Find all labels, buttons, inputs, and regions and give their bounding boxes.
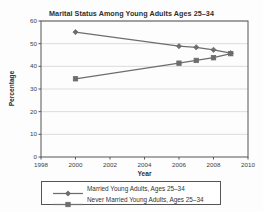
x-tick-label: 2008: [201, 161, 227, 168]
y-tick-label: 10: [15, 130, 37, 137]
marker-diamond: [211, 47, 216, 52]
legend-item-married: Married Young Adults, Ages 25–34: [42, 183, 220, 194]
x-axis-label: Year: [115, 170, 175, 177]
legend-marker-diamond-icon: [53, 184, 83, 193]
marker-square: [73, 77, 77, 81]
series-line-0: [76, 32, 231, 53]
marker-diamond: [194, 45, 199, 50]
x-tick-label: 2006: [166, 161, 192, 168]
y-tick-label: 0: [15, 153, 37, 160]
legend-label-never-married: Never Married Young Adults, Ages 25–34: [83, 195, 204, 204]
data-series-layer: [73, 30, 233, 81]
gridlines: [41, 21, 248, 134]
marker-square: [229, 51, 233, 55]
y-axis-label: Percentage: [8, 59, 15, 119]
marker-diamond: [73, 30, 78, 35]
chart-figure: Marital Status Among Young Adults Ages 2…: [0, 0, 263, 212]
marker-square: [211, 56, 215, 60]
y-tick-label: 60: [15, 17, 37, 24]
marker-square: [194, 58, 198, 62]
y-tick-label: 40: [15, 62, 37, 69]
x-tick-label: 2004: [132, 161, 158, 168]
x-tick-label: 2000: [63, 161, 89, 168]
y-tick-label: 50: [15, 40, 37, 47]
legend-marker-square-icon: [53, 195, 83, 204]
legend-item-never-married: Never Married Young Adults, Ages 25–34: [42, 194, 220, 205]
legend-label-married: Married Young Adults, Ages 25–34: [83, 184, 185, 193]
chart-legend: Married Young Adults, Ages 25–34 Never M…: [41, 181, 221, 205]
y-tick-label: 30: [15, 85, 37, 92]
marker-square: [177, 61, 181, 65]
x-tick-label: 1998: [28, 161, 54, 168]
x-tick-label: 2002: [97, 161, 123, 168]
y-tick-label: 20: [15, 108, 37, 115]
marker-diamond: [176, 44, 181, 49]
x-tick-label: 2010: [235, 161, 261, 168]
